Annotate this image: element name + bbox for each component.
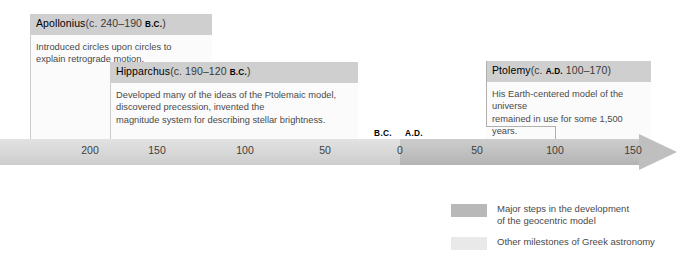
timeline-bar-bc-segment <box>0 139 400 165</box>
axis-era-label-bc: B.C. <box>374 128 392 138</box>
callout-hipparchus-name: Hipparchus <box>116 65 170 77</box>
timeline-bar-ad-segment <box>400 139 642 165</box>
callout-apollonius-date-prefix: (c. 240–190 <box>85 17 145 29</box>
callout-hipparchus-era: B.C. <box>230 68 247 77</box>
ptolemy-leader-horizontal <box>486 126 556 127</box>
callout-hipparchus-body: Developed many of the ideas of the Ptole… <box>110 83 358 130</box>
ptolemy-leader-vertical-left <box>486 61 487 127</box>
callout-ptolemy-header: Ptolemy(c. A.D. 100–170) <box>486 61 651 82</box>
legend: Major steps in the development of the ge… <box>451 203 679 259</box>
callout-ptolemy-era: A.D. <box>546 67 563 76</box>
axis-tick-150-ad: 150 <box>624 144 642 156</box>
callout-hipparchus-date-prefix: (c. 190–120 <box>170 65 230 77</box>
callout-ptolemy-name: Ptolemy <box>492 64 531 76</box>
legend-item-geocentric: Major steps in the development of the ge… <box>451 203 679 227</box>
callout-apollonius-era: B.C. <box>145 20 162 29</box>
axis-tick-100-bc: 100 <box>236 144 254 156</box>
axis-tick-50-bc: 50 <box>319 144 331 156</box>
ptolemy-leader-vertical-drop <box>555 126 556 140</box>
callout-ptolemy-body: His Earth-centered model of the universe… <box>486 82 651 142</box>
timeline-arrow-icon <box>639 134 677 170</box>
axis-tick-200-bc: 200 <box>81 144 99 156</box>
callout-ptolemy-date-prefix: (c. <box>531 64 546 76</box>
axis-tick-50-ad: 50 <box>471 144 483 156</box>
callout-hipparchus-date-suffix: ) <box>247 65 251 77</box>
axis-era-label-ad: A.D. <box>405 128 423 138</box>
axis-tick-150-bc: 150 <box>148 144 166 156</box>
axis-tick-0: 0 <box>397 144 403 156</box>
legend-swatch-geocentric <box>451 204 487 217</box>
legend-label-other-milestones: Other milestones of Greek astronomy <box>497 236 655 248</box>
legend-label-geocentric: Major steps in the development of the ge… <box>497 203 629 227</box>
callout-ptolemy[interactable]: Ptolemy(c. A.D. 100–170) His Earth-cente… <box>486 61 651 142</box>
legend-item-other-milestones: Other milestones of Greek astronomy <box>451 236 679 250</box>
callout-ptolemy-date-suffix: 100–170) <box>563 64 611 76</box>
timeline-figure: Apollonius(c. 240–190 B.C.) Introduced c… <box>0 0 679 272</box>
callout-hipparchus[interactable]: Hipparchus(c. 190–120 B.C.) Developed ma… <box>110 62 358 130</box>
callout-apollonius-name: Apollonius <box>36 17 85 29</box>
callout-hipparchus-header: Hipparchus(c. 190–120 B.C.) <box>110 62 358 83</box>
axis-tick-100-ad: 100 <box>546 144 564 156</box>
legend-swatch-other-milestones <box>451 237 487 250</box>
timeline-axis: 200 150 100 50 0 50 100 150 <box>0 139 679 165</box>
callout-apollonius-date-suffix: ) <box>162 17 166 29</box>
callout-apollonius-header: Apollonius(c. 240–190 B.C.) <box>30 14 212 35</box>
